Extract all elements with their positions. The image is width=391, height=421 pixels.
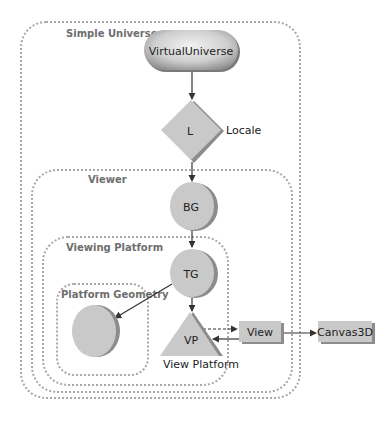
edge-tg-platform-geometry	[115, 284, 172, 318]
virtual-universe-label: VirtualUniverse	[149, 45, 233, 58]
scene-graph-diagram: Simple Universe Viewer Viewing Platform …	[0, 0, 391, 421]
transform-group-label: TG	[183, 268, 198, 281]
view-platform-label: VP	[184, 334, 198, 347]
canvas3d-node-label: Canvas3D	[317, 326, 373, 339]
locale-caption: Locale	[226, 124, 261, 137]
view-platform-caption: View Platform	[163, 358, 239, 371]
locale-node-label: L	[187, 125, 193, 138]
view-node-label: View	[247, 326, 273, 339]
platform-geometry-node	[72, 305, 120, 357]
branch-group-label: BG	[183, 201, 199, 214]
